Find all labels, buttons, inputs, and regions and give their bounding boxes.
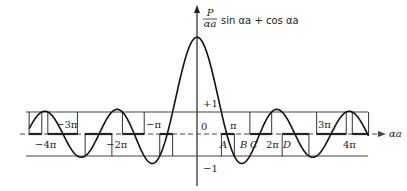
plus-one-label: +1 [203, 98, 218, 109]
function-curve [29, 37, 368, 163]
point-a-label: A [219, 139, 227, 150]
tick-minus-pi: −π [146, 119, 161, 130]
title-numerator: P [206, 7, 214, 18]
minus-one-label: −1 [203, 163, 218, 174]
point-d-label: D [282, 139, 291, 150]
title-denominator: αa [204, 18, 217, 29]
band-outline [29, 112, 42, 134]
tick-minus-3pi: −3π [56, 119, 78, 130]
x-axis-label: αa [389, 128, 402, 139]
origin-label: 0 [201, 121, 207, 132]
x-axis-arrow-icon [378, 131, 386, 137]
tick-2pi: 2π [266, 139, 279, 150]
kronig-penney-diagram: P αa sin αa + cos αa +1 0 −1 αa −4π −3π … [0, 0, 407, 191]
tick-4pi: 4π [343, 139, 356, 150]
tick-minus-4pi: −4π [35, 139, 57, 150]
point-c-label: C [250, 139, 258, 150]
y-axis-arrow-icon [194, 5, 200, 13]
tick-3pi: 3π [318, 119, 331, 130]
point-b-label: B [239, 139, 247, 150]
title-expression: sin αa + cos αa [221, 15, 299, 26]
tick-minus-2pi: −2π [106, 139, 128, 150]
tick-pi: π [230, 120, 237, 131]
